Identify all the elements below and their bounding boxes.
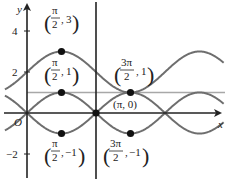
svg-text:): ) (78, 143, 85, 168)
svg-text:−1: −1 (65, 146, 77, 158)
label-pi2-1: ( π 2 , 1 ) (44, 56, 79, 87)
svg-text:π: π (52, 137, 58, 149)
svg-text:(π, 0): (π, 0) (113, 98, 137, 111)
svg-text:): ) (142, 143, 149, 168)
y-axis-label: y (16, 3, 22, 15)
svg-text:2: 2 (52, 151, 58, 163)
x-axis-label: x (217, 118, 223, 130)
y-tick-label-2: 2 (12, 66, 18, 78)
point-marker (127, 130, 134, 137)
svg-text:,: , (125, 146, 128, 158)
point-marker (58, 48, 65, 55)
origin-label: O (14, 116, 22, 128)
label-pi-0: (π, 0) (113, 98, 137, 111)
point-marker (92, 109, 99, 116)
svg-text:(: ( (44, 10, 51, 35)
svg-text:−1: −1 (129, 146, 141, 158)
svg-text:(: ( (44, 143, 51, 168)
label-pi2-neg1: ( π 2 , −1 ) (44, 137, 85, 168)
point-marker (58, 130, 65, 137)
svg-text:,: , (61, 13, 64, 25)
svg-text:): ) (72, 62, 79, 87)
svg-text:π: π (52, 4, 58, 16)
svg-text:(: ( (44, 62, 51, 87)
svg-text:1: 1 (141, 65, 147, 77)
point-marker (127, 89, 134, 96)
label-3pi2-neg1: ( 3π 2 , −1 ) (103, 137, 149, 168)
svg-text:1: 1 (66, 65, 72, 77)
function-graph: 4 2 −2 y x O ( π 2 , 3 ) ( π 2 , 1 ) ( 3… (0, 0, 229, 181)
label-pi2-3: ( π 2 , 3 ) (44, 4, 79, 35)
svg-text:2: 2 (52, 70, 58, 82)
svg-text:): ) (147, 62, 154, 87)
svg-text:,: , (136, 65, 139, 77)
label-3pi2-1: ( 3π 2 , 1 ) (114, 56, 154, 87)
svg-text:2: 2 (124, 70, 130, 82)
y-tick-label-4: 4 (12, 25, 18, 37)
svg-text:): ) (72, 10, 79, 35)
y-tick-label-neg2: −2 (6, 148, 18, 160)
point-marker (58, 89, 65, 96)
svg-text:3π: 3π (121, 56, 133, 68)
svg-text:,: , (61, 65, 64, 77)
svg-text:π: π (52, 56, 58, 68)
svg-text:3π: 3π (110, 137, 122, 149)
svg-text:,: , (61, 146, 64, 158)
svg-text:2: 2 (52, 18, 58, 30)
svg-text:2: 2 (113, 151, 119, 163)
